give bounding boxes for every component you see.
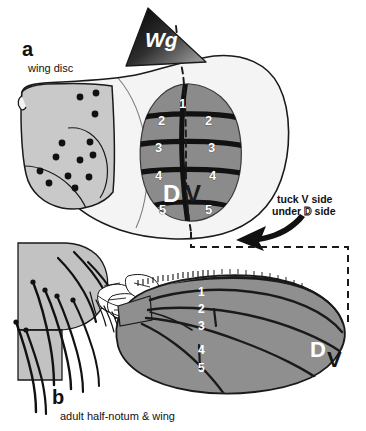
instruction-line-2: under D side	[272, 205, 336, 217]
instruction-line-2-suffix: side	[312, 205, 336, 217]
wing-vein-number-2: 2	[198, 302, 205, 316]
wing-vein-number-5: 5	[198, 361, 205, 375]
pouch-number-3-left: 3	[155, 140, 162, 155]
wing-vein-number-4: 4	[198, 343, 205, 357]
figure-root: Wg 1 2 2 3 3 4 4 5 5 D V a wing disc tuc…	[0, 0, 366, 431]
pouch-d-label: D	[163, 180, 180, 207]
pouch-number-3-right: 3	[208, 140, 215, 155]
wing-vein-number-1: 1	[198, 285, 205, 299]
panel-a-group: Wg 1 2 2 3 3 4 4 5 5 D V a wing disc	[18, 8, 288, 239]
wing-v-label: V	[327, 347, 342, 372]
pouch-v-label: V	[185, 180, 201, 207]
pouch-number-2-right: 2	[205, 113, 212, 128]
disc-notum-region	[21, 83, 114, 209]
wg-label: Wg	[145, 28, 178, 51]
figure-svg: Wg 1 2 2 3 3 4 4 5 5 D V a wing disc tuc…	[0, 0, 366, 431]
panel-a-letter: a	[22, 38, 34, 60]
pouch-number-1-center: 1	[179, 96, 186, 111]
panel-b-caption: adult half-notum & wing	[60, 410, 175, 422]
pouch-number-4-left: 4	[155, 168, 163, 183]
pouch-number-5-right: 5	[205, 202, 212, 217]
wing-vein-number-3: 3	[198, 319, 205, 333]
instruction-line-1: tuck V side	[277, 193, 333, 205]
panel-b-letter: b	[52, 386, 64, 408]
pouch-number-2-left: 2	[158, 113, 165, 128]
pouch-number-4-right: 4	[209, 168, 217, 183]
panel-b-group: 1 2 3 4 5 D V b adult half-notum & wing	[13, 243, 344, 422]
wing-d-label: D	[310, 337, 326, 362]
panel-a-caption: wing disc	[27, 62, 74, 74]
